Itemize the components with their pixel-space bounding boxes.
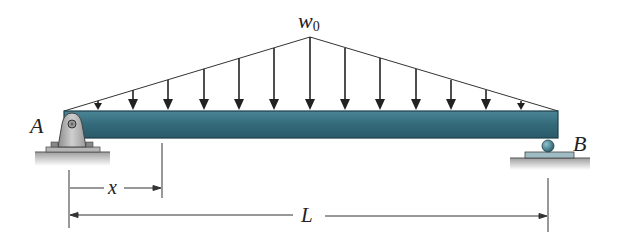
beam: [64, 111, 558, 138]
load-label: w0: [298, 8, 320, 34]
dimension-l-label: L: [301, 203, 313, 228]
load-symbol: w: [298, 8, 313, 33]
load-subscript: 0: [313, 19, 320, 34]
support-a-label: A: [30, 113, 43, 139]
distributed-load: [64, 37, 558, 111]
dimension-x-label: x: [108, 176, 117, 199]
support-b-label: B: [573, 131, 586, 157]
